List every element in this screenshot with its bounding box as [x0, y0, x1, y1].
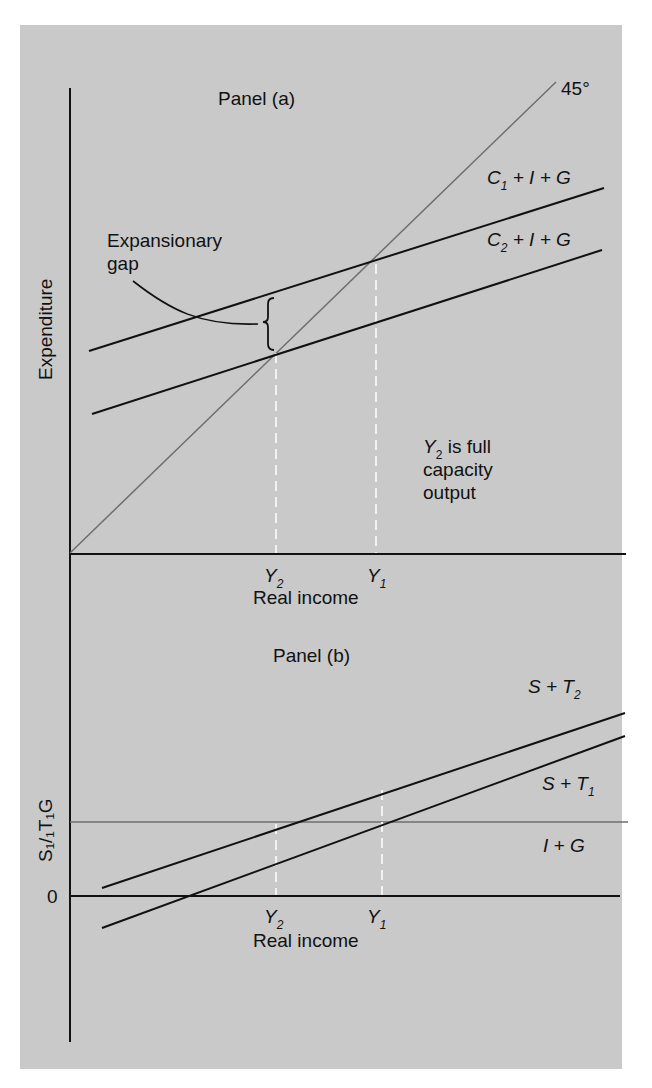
gap-label-line1: Expansionary	[107, 230, 223, 251]
diagram-figure: Panel (a) Expenditure 45° C1 + I + G C2 …	[0, 0, 652, 1088]
full-capacity-note-line3: output	[423, 482, 477, 503]
ig-label: I + G	[543, 835, 585, 856]
panel-a-title: Panel (a)	[218, 88, 295, 109]
panel-a-y-axis-label: Expenditure	[35, 279, 56, 380]
panel-b-x-axis-label: Real income	[253, 930, 359, 951]
forty-five-degree-label: 45°	[561, 78, 590, 99]
full-capacity-note-line2: capacity	[423, 459, 493, 480]
panel-a-x-axis-label: Real income	[253, 587, 359, 608]
panel-b-origin-label: 0	[47, 886, 58, 907]
panel-b-y-axis-label: S₁/₁T₁G	[35, 798, 56, 862]
panel-b-title: Panel (b)	[273, 645, 350, 666]
gap-label-line2: gap	[107, 253, 139, 274]
